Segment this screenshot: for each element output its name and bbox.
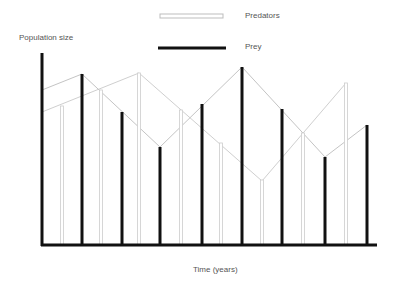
predator-bar [180, 110, 183, 245]
predator-bar [345, 83, 348, 245]
predator-trend-line [42, 73, 346, 181]
legend-predators-swatch [160, 14, 223, 18]
y-axis-label: Population size [19, 33, 73, 42]
predator-bar [302, 133, 305, 245]
predator-bar [220, 143, 223, 245]
prey-trend-line [42, 67, 367, 157]
predator-bar [261, 180, 264, 245]
predator-bar [100, 90, 103, 245]
x-axis-label: Time (years) [193, 265, 238, 274]
predator-bar [61, 106, 64, 245]
predator-line [42, 73, 346, 181]
prey-line [42, 67, 367, 157]
predator-bars [61, 73, 348, 245]
legend-prey-label: Prey [245, 42, 261, 51]
predator-bar [138, 73, 141, 245]
chart-canvas [0, 0, 394, 289]
legend-predators-label: Predators [245, 11, 280, 20]
